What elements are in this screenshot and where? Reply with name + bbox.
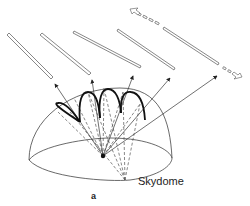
panel-label: a (91, 191, 96, 201)
arrow-up-left-icon (130, 8, 140, 15)
skydome-diagram (0, 0, 250, 206)
tube-5 (163, 27, 219, 65)
skydome-label: Skydome (138, 175, 184, 187)
arrow-down-right-icon (232, 72, 242, 79)
tube-4 (117, 29, 175, 70)
tube-3 (73, 31, 141, 68)
tube-group (7, 27, 219, 79)
observer-point (101, 154, 105, 158)
tube-2 (40, 33, 91, 75)
